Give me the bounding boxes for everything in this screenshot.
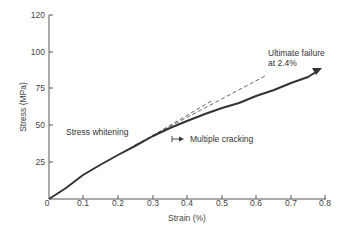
x-tick-0: 0	[45, 198, 50, 208]
y-tick-75: 75	[36, 83, 46, 93]
x-tick-0.5: 0.5	[216, 198, 228, 208]
stress-strain-chart: 120 100 75 50 25 0 0.1 0.2 0.3 0.4 0.5 0…	[0, 0, 347, 231]
annotation-multiple-cracking: Multiple cracking	[190, 134, 254, 144]
annotation-stress-whitening: Stress whitening	[66, 127, 129, 137]
x-tick-0.6: 0.6	[250, 198, 262, 208]
y-axis	[49, 15, 53, 199]
x-axis-title: Strain (%)	[168, 213, 206, 223]
y-axis-title: Stress (MPa)	[18, 82, 28, 132]
y-tick-25: 25	[36, 157, 46, 167]
x-tick-0.7: 0.7	[285, 198, 297, 208]
y-tick-120: 120	[31, 10, 45, 20]
x-tick-0.2: 0.2	[112, 198, 124, 208]
x-tick-0.8: 0.8	[319, 198, 331, 208]
annotation-ultimate-failure: Ultimate failure	[268, 48, 325, 58]
x-tick-0.1: 0.1	[77, 198, 89, 208]
y-tick-50: 50	[36, 120, 46, 130]
x-tick-0.3: 0.3	[147, 198, 159, 208]
multiple-cracking-marker-icon	[172, 136, 184, 142]
x-tick-0.4: 0.4	[181, 198, 193, 208]
annotation-ultimate-failure-value: at 2.4%	[268, 58, 297, 68]
y-tick-100: 100	[31, 47, 45, 57]
